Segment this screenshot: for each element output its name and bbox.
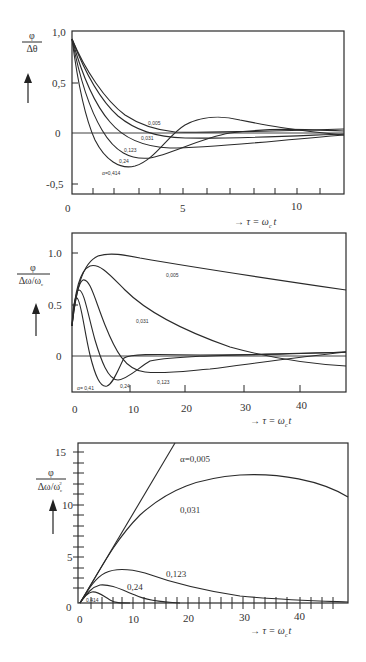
chart-3-ytick-label: 10 [62,499,74,511]
chart-3-xtick-label: 30 [239,611,251,623]
chart-3-curve-alpha-0031 [80,475,348,603]
chart-1-curve-label: α=0,414 [102,170,121,176]
chart-2-ylabel-denominator: Δω/ωc [19,275,44,287]
chart-3-plot-frame [78,443,348,603]
chart-2-curve-label: 0,005 [166,272,179,278]
chart-2-curve-alpha-024 [72,290,346,380]
chart-1-xlabel: → τ = ωct [234,216,277,229]
chart-1-ytick-label: 0,5 [52,77,66,89]
chart-1-curve-alpha-0414 [72,39,344,167]
chart-1: φ Δθ 1,0 0,5 0 -0,5 [22,26,344,229]
chart-3-xtick-label: 10 [128,613,140,625]
chart-2-curve-label: α= 0,41 [77,385,94,391]
chart-3-xtick-label: 0 [77,613,83,625]
chart-2-curve-label: 0,031 [136,318,149,324]
chart-2-xtick-label: 0 [72,403,78,415]
chart-2-curve-label: 0,24 [120,383,130,389]
chart-2-curve-alpha-041 [72,298,346,386]
chart-3-up-arrow-icon [49,499,57,534]
chart-1-ytick-label: 0 [55,127,61,139]
chart-1-ytick-label: 1,0 [52,26,66,38]
chart-2-ylabel-numerator: φ [30,262,36,273]
chart-1-up-arrow-icon [24,73,32,103]
chart-2: φ Δω/ωc 1.0 0.5 0 0 10 20 30 40 → τ [17,233,346,428]
chart-3-xlabel: → τ = ωct [250,625,292,638]
chart-1-curve-alpha-024 [72,39,344,158]
chart-3-xtick-label: 20 [183,612,195,624]
chart-1-curve-alpha-0031 [72,39,344,138]
chart-2-xtick-label: 40 [296,399,308,411]
chart-1-ytick-label: -0,5 [46,178,64,190]
chart-2-curve-label: 0,123 [157,379,170,385]
chart-3-ytick-label: 5 [67,551,73,563]
chart-1-curve-label: 0,005 [148,120,161,126]
chart-1-ylabel-numerator: φ [29,30,35,41]
chart-3-ylabel-denominator: Δω/ωc2 [38,481,63,493]
chart-3-curve-label: 0,031 [180,505,200,515]
chart-3: φ Δω/ωc2 15 10 5 0 [36,443,348,638]
chart-2-plot-frame [72,233,346,392]
chart-3-curve-alpha-0123 [80,570,348,603]
chart-1-x-ticks [93,188,320,194]
chart-2-curve-alpha-0123 [72,280,346,373]
chart-1-xtick-label: 10 [291,200,303,212]
chart-2-xlabel: → τ = ωct [250,415,292,428]
chart-2-xtick-label: 30 [240,401,252,413]
chart-1-ylabel-denominator: Δθ [26,43,37,54]
chart-3-ylabel-numerator: φ [48,467,54,478]
chart-3-curve-label: 0,24 [127,582,143,592]
chart-1-curve-label: 0,031 [141,135,154,141]
chart-3-ytick-label: 0 [66,601,72,613]
figure-canvas: φ Δθ 1,0 0,5 0 -0,5 [0,0,366,662]
chart-3-curve-label: 0,414 [86,597,99,603]
chart-3-curve-label: 0,123 [166,569,187,579]
chart-2-xtick-label: 20 [181,402,193,414]
chart-3-curve-label: α=0,005 [180,454,211,464]
chart-2-ytick-label: 1.0 [48,247,62,259]
chart-1-y-ticks [72,83,78,184]
chart-2-curve-alpha-0031 [72,266,346,366]
chart-2-up-arrow-icon [32,303,40,336]
chart-2-ytick-label: 0.5 [48,299,62,311]
chart-2-curve-alpha-0005 [72,254,346,326]
chart-2-ytick-label: 0 [56,350,62,362]
chart-1-xtick-label: 5 [180,202,186,214]
chart-1-curve-alpha-0005 [72,39,344,132]
chart-1-curve-label: 0,24 [119,158,129,164]
chart-1-curve-label: 0,123 [124,147,137,153]
chart-2-xtick-label: 10 [128,403,140,415]
chart-1-xtick-label: 0 [65,202,71,214]
chart-3-ytick-label: 15 [55,446,67,458]
chart-3-xtick-label: 40 [294,610,306,622]
chart-2-x-ticks [130,385,300,392]
